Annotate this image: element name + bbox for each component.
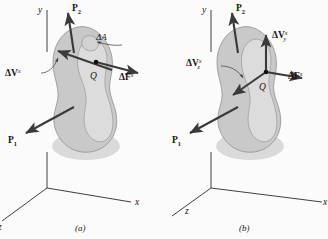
point-q-marker-b <box>264 70 269 75</box>
axis-label-x-a: x <box>134 197 140 207</box>
force-label-p2-a: P2 <box>72 3 81 15</box>
axis-z-b <box>172 188 211 216</box>
point-q-marker-a <box>94 60 99 65</box>
point-q-label-a: Q <box>90 71 97 81</box>
force-label-p2-b: P2 <box>236 3 245 15</box>
external-force-label-df-b: ΔFx <box>288 70 303 81</box>
figure-container: y x z P2 P1 ΔVx ΔFx Q <box>0 0 328 239</box>
axis-label-z-a: z <box>0 222 2 232</box>
axis-x-a <box>47 188 131 202</box>
internal-force-label-dv-a: ΔVx <box>5 67 21 78</box>
force-label-p1-a: P1 <box>8 135 17 147</box>
panel-caption-b: (b) <box>239 223 250 233</box>
axis-label-z-b: z <box>184 206 189 216</box>
axis-label-y-b: y <box>201 5 207 15</box>
internal-force-label-dvy-b: ΔVxy <box>272 29 288 43</box>
axis-x-b <box>211 188 322 202</box>
panel-a: y x z P2 P1 ΔVx ΔFx Q <box>0 3 140 233</box>
axis-label-x-b: x <box>322 197 328 207</box>
area-label-delta-a-a: ΔA <box>95 32 107 42</box>
axis-z-a <box>2 188 47 221</box>
axis-label-y-a: y <box>37 5 43 15</box>
panel-b: y x z P2 P1 ΔVxy ΔVxz ΔFx <box>172 3 328 233</box>
external-force-label-df-a: ΔFx <box>119 71 134 82</box>
mechanics-figure: y x z P2 P1 ΔVx ΔFx Q <box>0 0 328 239</box>
point-q-label-b: Q <box>259 82 266 92</box>
panel-caption-a: (a) <box>75 223 86 233</box>
force-label-p1-b: P1 <box>172 135 181 147</box>
internal-force-label-dvz-b: ΔVxz <box>186 57 202 71</box>
